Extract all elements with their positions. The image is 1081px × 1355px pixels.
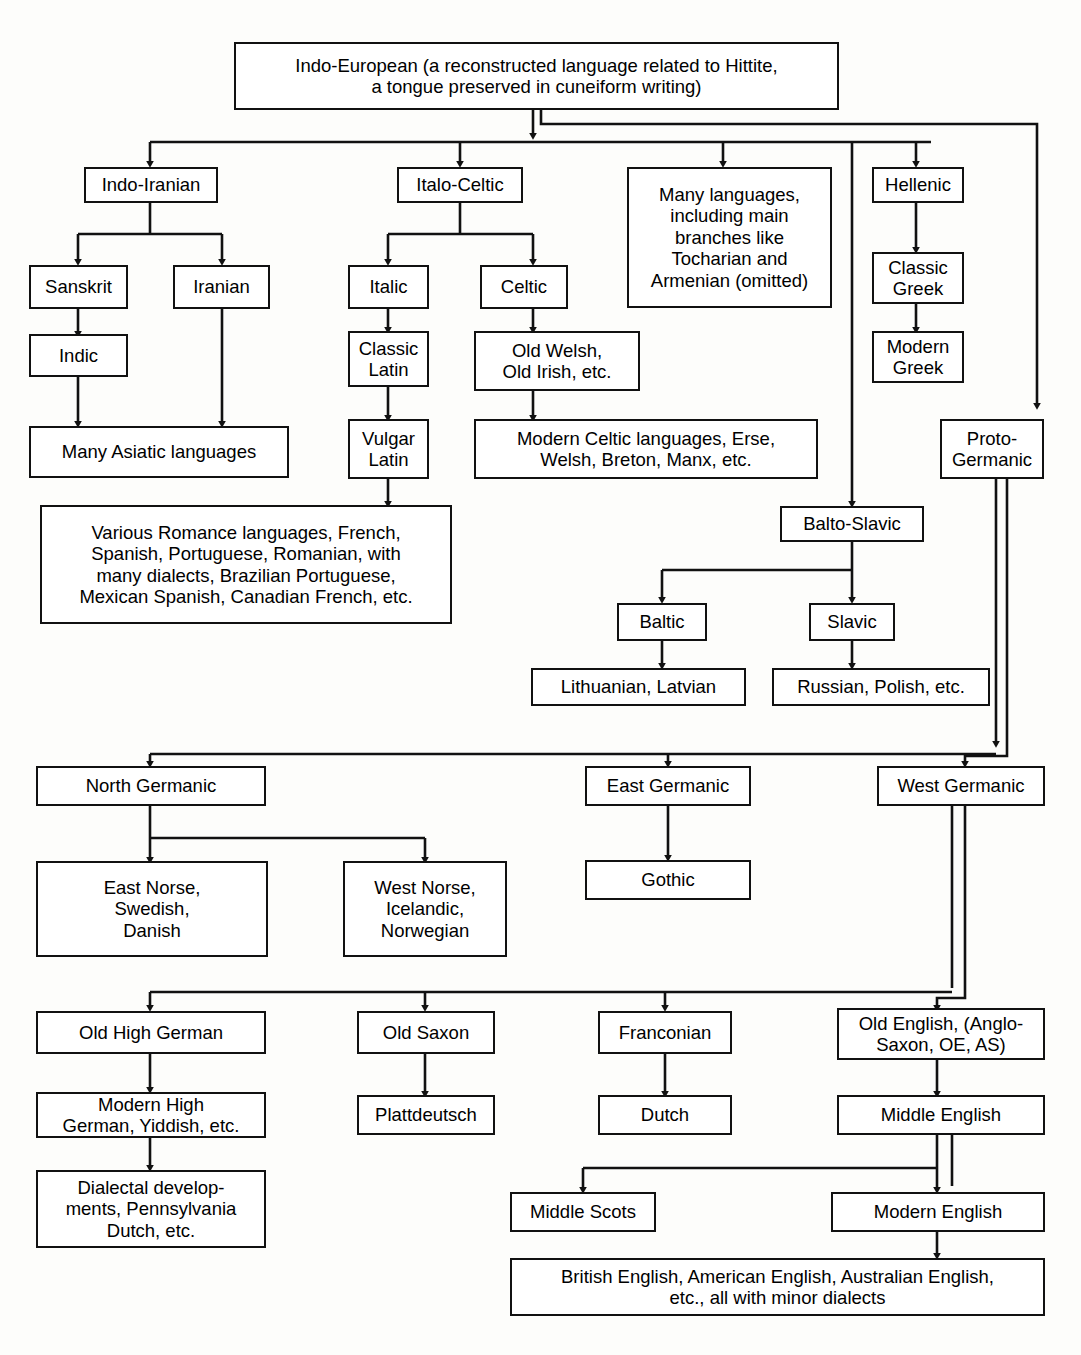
node-lithuanian-latvian: Lithuanian, Latvian	[531, 668, 746, 706]
node-franconian: Franconian	[598, 1011, 732, 1054]
node-british-american-australian-english: British English, American English, Austr…	[510, 1258, 1045, 1316]
node-east-germanic: East Germanic	[585, 766, 751, 806]
node-classic-latin: Classic Latin	[348, 331, 429, 387]
node-sanskrit: Sanskrit	[29, 265, 128, 309]
node-celtic: Celtic	[480, 265, 568, 309]
node-modern-greek: Modern Greek	[872, 331, 964, 383]
node-west-germanic: West Germanic	[877, 766, 1045, 806]
node-hellenic: Hellenic	[872, 167, 964, 203]
node-dutch: Dutch	[598, 1095, 732, 1135]
node-modern-celtic-languages: Modern Celtic languages, Erse, Welsh, Br…	[474, 419, 818, 479]
node-italic: Italic	[348, 265, 429, 309]
node-old-saxon: Old Saxon	[357, 1011, 495, 1054]
node-iranian: Iranian	[173, 265, 270, 309]
node-many-languages: Many languages, including main branches …	[627, 167, 832, 308]
node-old-high-german: Old High German	[36, 1011, 266, 1054]
node-indic: Indic	[29, 334, 128, 377]
node-north-germanic: North Germanic	[36, 766, 266, 806]
node-indo-iranian: Indo-Iranian	[84, 167, 218, 203]
node-east-norse: East Norse, Swedish, Danish	[36, 861, 268, 957]
node-vulgar-latin: Vulgar Latin	[348, 419, 429, 479]
language-family-tree-diagram: Indo-European (a reconstructed language …	[0, 0, 1081, 1355]
node-slavic: Slavic	[809, 603, 895, 641]
node-proto-germanic: Proto- Germanic	[940, 419, 1044, 479]
node-romance-languages: Various Romance languages, French, Spani…	[40, 505, 452, 624]
node-russian-polish: Russian, Polish, etc.	[772, 668, 990, 706]
node-classic-greek: Classic Greek	[872, 252, 964, 304]
node-old-english: Old English, (Anglo- Saxon, OE, AS)	[837, 1008, 1045, 1060]
node-italo-celtic: Italo-Celtic	[397, 167, 523, 203]
node-middle-scots: Middle Scots	[510, 1192, 656, 1232]
node-indo-european: Indo-European (a reconstructed language …	[234, 42, 839, 110]
node-many-asiatic-languages: Many Asiatic languages	[29, 426, 289, 478]
node-gothic: Gothic	[585, 860, 751, 900]
node-middle-english: Middle English	[837, 1095, 1045, 1135]
node-modern-english: Modern English	[831, 1192, 1045, 1232]
node-old-welsh-old-irish: Old Welsh, Old Irish, etc.	[474, 331, 640, 391]
node-plattdeutsch: Plattdeutsch	[357, 1095, 495, 1135]
node-west-norse: West Norse, Icelandic, Norwegian	[343, 861, 507, 957]
node-baltic: Baltic	[617, 603, 707, 641]
node-modern-high-german: Modern High German, Yiddish, etc.	[36, 1092, 266, 1138]
node-dialectal-developments: Dialectal develop- ments, Pennsylvania D…	[36, 1170, 266, 1248]
node-balto-slavic: Balto-Slavic	[780, 506, 924, 542]
